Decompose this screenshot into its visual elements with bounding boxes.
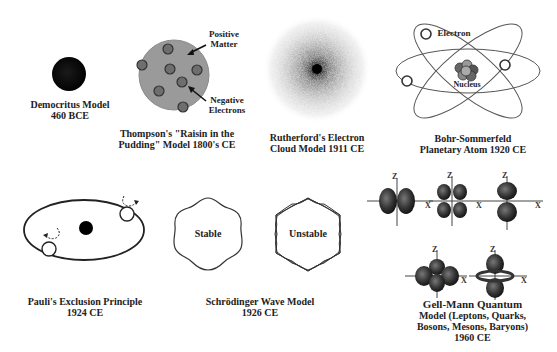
dxz-orbital: Z X — [429, 171, 485, 226]
label-line: Positive — [204, 29, 244, 39]
electron-label: Electron — [432, 28, 476, 38]
caption-line: Bohr-Sommerfeld — [408, 133, 538, 144]
caption-line: 1960 CE — [400, 332, 545, 343]
svg-text:X: X — [535, 201, 541, 210]
democritus-caption: Democritus Model 460 BCE — [15, 99, 125, 121]
svg-text:Z: Z — [490, 245, 495, 254]
thompson-caption: Thompson's "Raisin in the Pudding" Model… — [112, 128, 242, 150]
caption-line: Cloud Model 1911 CE — [262, 143, 372, 154]
caption-line: Planetary Atom 1920 CE — [408, 144, 538, 155]
svg-text:Z: Z — [502, 171, 507, 180]
gellmann-caption: Gell-Mann Quantum Model (Leptons, Quarks… — [400, 298, 545, 343]
label-line: Electrons — [204, 105, 250, 115]
schrodinger-caption: Schrödinger Wave Model 1926 CE — [195, 296, 325, 318]
electron-cloud-icon — [262, 14, 372, 124]
pauli-caption: Pauli's Exclusion Principle 1924 CE — [20, 296, 150, 318]
caption-line: Pauli's Exclusion Principle — [20, 296, 150, 307]
positive-matter-label: Positive Matter — [204, 29, 244, 49]
stable-label: Stable — [188, 229, 228, 239]
pz-orbital: Z X — [485, 171, 543, 230]
svg-text:Z: Z — [447, 171, 452, 180]
spin-orbit-icon — [20, 190, 150, 270]
unstable-label: Unstable — [284, 229, 332, 239]
bohr-caption: Bohr-Sommerfeld Planetary Atom 1920 CE — [408, 133, 538, 155]
caption-line: Pudding" Model 1800's CE — [112, 139, 242, 150]
nucleus-label: Nucleus — [447, 80, 487, 90]
solid-sphere-icon — [50, 55, 90, 95]
dx2y2-orbital: Z X — [405, 245, 467, 298]
caption-line: 460 BCE — [15, 110, 125, 121]
rutherford-caption: Rutherford's Electron Cloud Model 1911 C… — [262, 132, 372, 154]
svg-text:X: X — [425, 201, 431, 210]
orbital-shapes-icon: Z X Z X Z X — [365, 170, 545, 300]
svg-text:X: X — [476, 201, 482, 210]
caption-line: Gell-Mann Quantum — [400, 298, 545, 310]
caption-line: Schrödinger Wave Model — [195, 296, 325, 307]
svg-text:Z: Z — [392, 172, 397, 181]
dz2-orbital: Z X — [469, 245, 527, 300]
caption-line: Model (Leptons, Quarks, — [400, 310, 545, 321]
svg-text:X: X — [461, 276, 467, 285]
caption-line: 1924 CE — [20, 307, 150, 318]
caption-line: Rutherford's Electron — [262, 132, 372, 143]
caption-line: Democritus Model — [15, 99, 125, 110]
px-orbital: Z X — [367, 172, 433, 226]
caption-line: Bosons, Mesons, Baryons) — [400, 321, 545, 332]
svg-text:X: X — [521, 276, 527, 285]
caption-line: Thompson's "Raisin in the — [112, 128, 242, 139]
label-line: Matter — [204, 39, 244, 49]
svg-text:Z: Z — [432, 245, 437, 254]
label-line: Negative — [204, 95, 250, 105]
negative-electrons-label: Negative Electrons — [204, 95, 250, 115]
caption-line: 1926 CE — [195, 307, 325, 318]
